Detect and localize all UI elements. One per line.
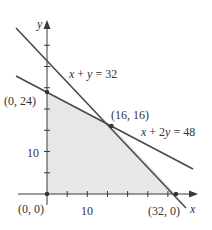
vertex-point-16-16 xyxy=(109,124,113,128)
x-axis-label: x xyxy=(190,203,195,215)
vertex-label-16-16: (16, 16) xyxy=(111,109,149,121)
equation-label-x-plus-2y-48: x + 2y = 48 xyxy=(141,126,195,138)
vertex-label-32-0: (32, 0) xyxy=(148,205,180,217)
eq1-rhs: = 32 xyxy=(92,67,117,81)
vertex-point-0-24 xyxy=(45,90,49,94)
y-tick-label-10: 10 xyxy=(27,147,39,159)
eq1-plus: + xyxy=(74,67,87,81)
eq2-rhs: = 48 xyxy=(170,125,195,139)
y-axis-label: y xyxy=(37,18,42,30)
eq2-plus: + 2 xyxy=(146,125,165,139)
y-axis-arrow-icon xyxy=(44,20,51,29)
x-tick-label-10: 10 xyxy=(81,205,93,217)
vertex-point-32-0 xyxy=(174,192,178,196)
linear-programming-diagram xyxy=(0,0,212,230)
equation-label-x-plus-y-32: x + y = 32 xyxy=(69,68,117,80)
vertex-point-0-0 xyxy=(45,192,49,196)
vertex-label-0-0: (0, 0) xyxy=(18,203,44,215)
vertex-label-0-24: (0, 24) xyxy=(4,95,36,107)
x-axis-arrow-icon xyxy=(189,191,198,198)
